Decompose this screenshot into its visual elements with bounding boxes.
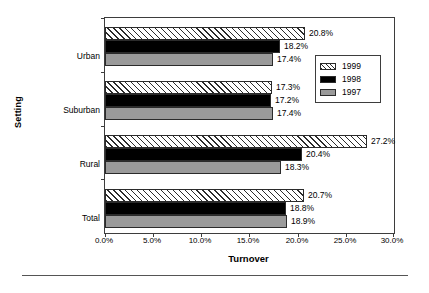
bar-value-suburban-1997: 17.4% [277,107,301,120]
x-tick-label-0: 0.0% [95,236,113,245]
bar-total-1997[interactable] [105,215,287,228]
y-tick-label-urban: Urban [36,51,100,61]
bar-total-1998[interactable] [105,202,286,215]
chart-figure: Setting Urban Suburban Rural Total 20.8%… [0,0,429,293]
bar-value-rural-1999: 27.2% [371,135,395,148]
bar-value-suburban-1998: 17.2% [275,94,299,107]
bar-urban-1999[interactable] [105,27,305,40]
legend-entry-1998[interactable]: 1998 [320,73,376,85]
bar-value-total-1999: 20.7% [308,189,332,202]
bar-rural-1997[interactable] [105,161,281,174]
bar-value-urban-1998: 18.2% [284,40,308,53]
bar-urban-1998[interactable] [105,40,280,53]
x-tick-label-20: 20.0% [286,236,309,245]
x-tick-label-10: 10.0% [189,236,212,245]
bar-value-urban-1999: 20.8% [309,27,333,40]
legend-label-1997: 1997 [342,87,361,97]
chart-legend[interactable]: 1999 1998 1997 [315,55,381,103]
plot-area: 20.8% 18.2% 17.4% 17.3% 17.2% 17.4% 27.2… [104,17,395,234]
bar-suburban-1997[interactable] [105,107,273,120]
x-tick-label-15: 15.0% [237,236,260,245]
bar-total-1999[interactable] [105,189,304,202]
bar-suburban-1999[interactable] [105,81,272,94]
y-axis-title: Setting [13,72,23,152]
y-tick-label-suburban: Suburban [36,105,100,115]
y-axis-tick [101,126,105,127]
bar-rural-1999[interactable] [105,135,367,148]
bar-value-total-1998: 18.8% [290,202,314,215]
x-axis-title: Turnover [104,253,393,264]
x-tick-label-25: 25.0% [334,236,357,245]
x-tick-label-30: 30.0% [381,236,404,245]
bar-value-urban-1997: 17.4% [277,53,301,66]
y-axis-tick [101,179,105,180]
legend-entry-1997[interactable]: 1997 [320,86,376,98]
y-tick-label-rural: Rural [36,159,100,169]
footer-divider [22,275,408,276]
bar-rural-1998[interactable] [105,148,302,161]
x-tick-label-5: 5.0% [143,236,161,245]
y-axis-tick [101,72,105,73]
legend-swatch-1997-icon [320,89,336,96]
bar-suburban-1998[interactable] [105,94,271,107]
bar-urban-1997[interactable] [105,53,273,66]
bar-value-rural-1997: 18.3% [285,161,309,174]
legend-label-1999: 1999 [342,61,361,71]
bar-value-suburban-1999: 17.3% [276,81,300,94]
bar-value-total-1997: 18.9% [291,215,315,228]
legend-swatch-1999-icon [320,63,336,70]
y-tick-label-total: Total [36,213,100,223]
legend-swatch-1998-icon [320,76,336,83]
y-axis-tick [101,18,105,19]
legend-entry-1999[interactable]: 1999 [320,60,376,72]
legend-label-1998: 1998 [342,74,361,84]
y-axis-tick-labels: Urban Suburban Rural Total [34,17,100,232]
bar-value-rural-1998: 20.4% [306,148,330,161]
